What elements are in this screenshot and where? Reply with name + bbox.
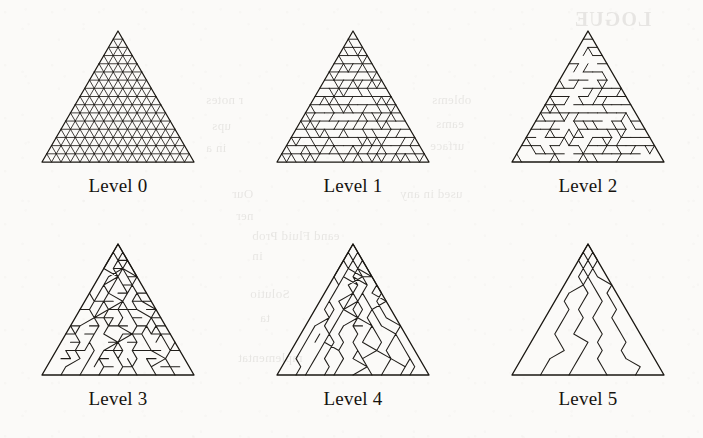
mesh-interior-edges bbox=[296, 244, 415, 375]
mesh-interior-edges bbox=[47, 39, 190, 162]
panel-level-5: Level 5 bbox=[490, 238, 686, 413]
mesh-level-2 bbox=[490, 25, 686, 175]
panel-level-1: Level 1 bbox=[255, 25, 451, 200]
mesh-interior-edges bbox=[61, 244, 180, 375]
panel-level-4: Level 4 bbox=[255, 238, 451, 413]
panel-label-level-1: Level 1 bbox=[255, 175, 451, 197]
ghost-text-9: ner bbox=[236, 208, 254, 224]
panel-label-level-0: Level 0 bbox=[20, 175, 216, 197]
ghost-text-7: Our bbox=[232, 186, 253, 202]
mesh-level-3 bbox=[20, 238, 216, 388]
mesh-level-0 bbox=[20, 25, 216, 175]
panel-level-0: Level 0 bbox=[20, 25, 216, 200]
mesh-edge-path bbox=[282, 39, 425, 162]
panel-level-3: Level 3 bbox=[20, 238, 216, 413]
triangle-outline bbox=[512, 244, 664, 375]
mesh-level-1 bbox=[255, 25, 451, 175]
mesh-edge-path bbox=[61, 244, 180, 375]
mesh-edge-path bbox=[296, 244, 415, 375]
mesh-level-4 bbox=[255, 238, 451, 388]
mesh-level-5 bbox=[490, 238, 686, 388]
mesh-edge-path bbox=[517, 39, 655, 162]
mesh-interior-edges bbox=[517, 39, 655, 162]
panel-label-level-4: Level 4 bbox=[255, 388, 451, 410]
panel-label-level-5: Level 5 bbox=[490, 388, 686, 410]
figure-canvas: LOGUEr notesupsin aoblemseamsurfaceOurus… bbox=[0, 0, 703, 438]
panel-label-level-2: Level 2 bbox=[490, 175, 686, 197]
mesh-interior-edges bbox=[282, 39, 425, 162]
panel-level-2: Level 2 bbox=[490, 25, 686, 200]
mesh-edge-path bbox=[47, 39, 190, 162]
panel-label-level-3: Level 3 bbox=[20, 388, 216, 410]
